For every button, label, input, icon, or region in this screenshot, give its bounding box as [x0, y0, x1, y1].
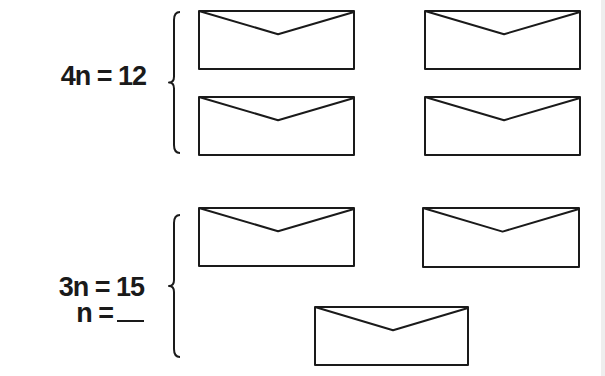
envelope-icon — [425, 97, 580, 155]
group-2 — [169, 208, 579, 365]
envelope-icon — [199, 208, 354, 266]
curly-brace-icon — [169, 12, 180, 153]
envelope-icon — [423, 208, 579, 267]
envelope-icon — [425, 11, 580, 69]
page-edge — [601, 0, 605, 376]
curly-brace-icon — [169, 215, 180, 357]
envelope-icon — [315, 307, 468, 365]
envelope-diagram — [0, 0, 605, 376]
envelope-icon — [199, 11, 354, 69]
envelope-icon — [199, 97, 354, 155]
group-1 — [169, 11, 580, 155]
